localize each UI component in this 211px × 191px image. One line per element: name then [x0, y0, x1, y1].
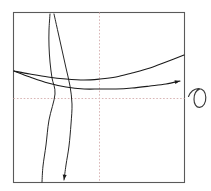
plot-svg [0, 0, 211, 191]
figure-container: σ line [0, 0, 211, 191]
handwritten-sigma-glyph [189, 89, 206, 108]
sigma-glyph-stroke [189, 89, 206, 108]
